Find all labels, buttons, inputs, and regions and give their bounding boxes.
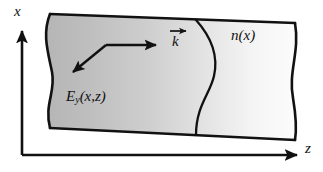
field-argument: (x,z) — [80, 88, 106, 104]
figure-canvas: x z n(x) k Ey(x,z) — [0, 0, 323, 172]
field-label: Ey(x,z) — [66, 89, 106, 105]
field-symbol: E — [66, 88, 75, 104]
refractive-index-label: n(x) — [231, 28, 255, 43]
k-symbol: k — [172, 33, 179, 49]
wavevector-label: k — [172, 34, 179, 49]
z-axis-label: z — [305, 141, 311, 156]
diagram-svg — [0, 0, 323, 172]
index-symbol: n — [231, 27, 239, 43]
index-argument: (x) — [239, 27, 256, 43]
x-axis-label: x — [14, 4, 21, 19]
